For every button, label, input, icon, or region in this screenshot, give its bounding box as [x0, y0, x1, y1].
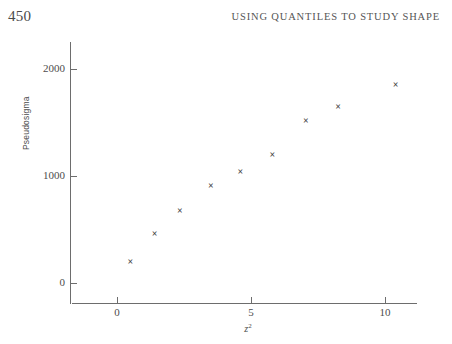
- data-point-marker: ×: [301, 115, 311, 127]
- plot-data-area: ×××××××××: [0, 0, 452, 344]
- data-point-marker: ×: [391, 79, 401, 91]
- data-point-marker: ×: [235, 166, 245, 178]
- scatter-plot-figure: 010002000 0510 Pseudosigma z2 ×××××××××: [0, 0, 452, 344]
- data-point-marker: ×: [175, 205, 185, 217]
- data-point-marker: ×: [267, 149, 277, 161]
- data-point-marker: ×: [333, 101, 343, 113]
- data-point-marker: ×: [125, 256, 135, 268]
- data-point-marker: ×: [150, 228, 160, 240]
- data-point-marker: ×: [206, 180, 216, 192]
